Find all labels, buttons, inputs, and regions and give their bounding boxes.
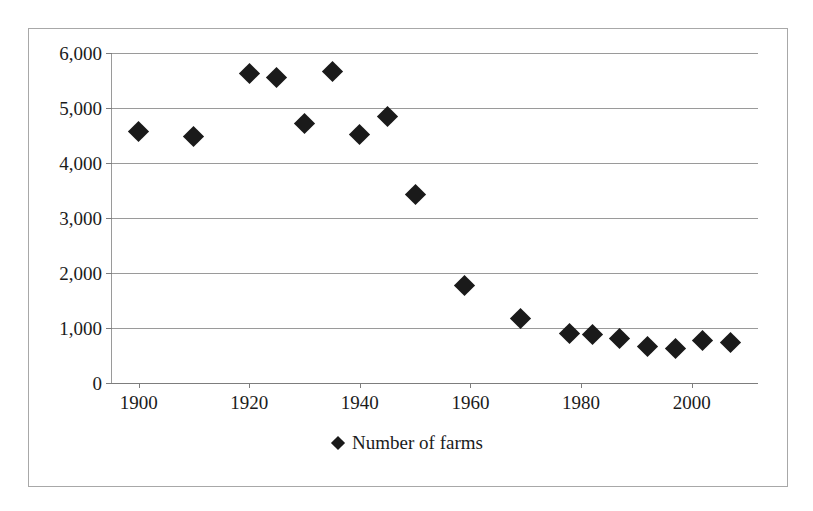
plot-area: 01,0002,0003,0004,0005,0006,000 19001920… [111,53,758,383]
data-point [454,274,475,295]
x-axis-label: 1940 [341,393,379,412]
y-axis-tick [106,383,112,384]
x-axis-tick [139,383,140,388]
gridline [111,273,758,274]
chart-legend: Number of farms [29,433,787,452]
y-axis-tick [106,218,112,219]
x-axis-label: 1980 [562,393,600,412]
x-axis-label: 1960 [451,393,489,412]
y-axis-tick [106,53,112,54]
legend-label: Number of farms [352,433,483,452]
data-point [183,126,204,147]
x-axis-label: 1920 [230,393,268,412]
y-axis-label: 3,000 [59,209,102,228]
data-point [239,63,260,84]
gridline [111,163,758,164]
y-axis-tick [106,163,112,164]
y-axis-tick [106,328,112,329]
data-point [294,113,315,134]
data-point [559,323,580,344]
data-point [405,184,426,205]
data-point [720,332,741,353]
data-point [637,336,658,357]
x-axis-tick [360,383,361,388]
chart-figure: 01,0002,0003,0004,0005,0006,000 19001920… [28,28,788,487]
x-axis-tick [692,383,693,388]
data-point [664,338,685,359]
gridline [111,108,758,109]
y-axis-label: 1,000 [59,319,102,338]
gridline [111,218,758,219]
y-axis-label: 5,000 [59,99,102,118]
gridline [111,383,758,384]
y-axis-tick [106,273,112,274]
data-point [349,124,370,145]
y-axis-label: 6,000 [59,44,102,63]
data-point [510,307,531,328]
gridline [111,53,758,54]
x-axis-tick [470,383,471,388]
gridline [111,328,758,329]
x-axis-label: 2000 [673,393,711,412]
data-point [128,121,149,142]
x-axis-label: 1900 [120,393,158,412]
legend-diamond-icon [331,435,345,449]
data-point [322,61,343,82]
y-axis-label: 2,000 [59,264,102,283]
y-axis-label: 0 [93,374,103,393]
x-axis-tick [581,383,582,388]
y-axis-tick [106,108,112,109]
data-point [692,329,713,350]
data-point [609,328,630,349]
data-point [266,67,287,88]
y-axis-label: 4,000 [59,154,102,173]
x-axis-tick [249,383,250,388]
